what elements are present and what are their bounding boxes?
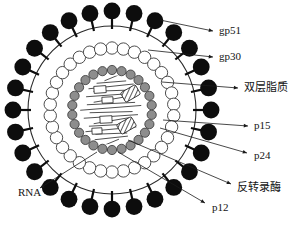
reverse-transcriptase-box [100,116,112,124]
bilayer-bead [106,166,118,178]
spike-head [5,102,22,119]
capsid-bead [145,120,154,129]
reverse-transcriptase-box [92,128,102,135]
spike-head [193,145,210,162]
spike-head [104,201,121,218]
spike-head [26,163,43,180]
capsid-bead [145,91,154,100]
bilayer-bead [106,42,118,54]
spike-head [82,5,99,22]
bilayer-bead [46,121,58,133]
label-rt: 反转录酶 [237,180,281,194]
reverse-transcriptase-box [102,97,113,104]
label-gp51: gp51 [219,24,241,36]
virus-diagram-figure: gp51gp30双层脂质p15p24反转录酶p12RNA [0,0,303,225]
spike-head [7,80,24,97]
capsid-bead [107,65,116,74]
label-gp30: gp30 [219,50,242,62]
bilayer-bead [165,87,177,99]
capsid-bead [98,144,107,153]
capsid-bead [68,101,77,110]
label-bilayer: 双层脂质 [244,80,288,94]
spike-head [147,191,164,208]
capsid-bead [70,91,79,100]
spike-head [14,59,31,76]
capsid-bead [134,75,143,84]
capsid-bead [81,75,90,84]
reverse-transcriptase-box [94,86,106,94]
spike-head [26,40,43,57]
spike-head [82,198,99,215]
bilayer-bead [117,165,129,177]
label-p24: p24 [254,149,271,161]
spike-head [61,12,78,29]
bilayer-bead [128,162,140,174]
spike-head [14,145,31,162]
capsid-bead [140,83,149,92]
spike-head [200,80,217,97]
label-p15: p15 [254,119,271,131]
bilayer-bead [44,98,56,110]
spike-head [104,3,121,20]
capsid-bead [147,101,156,110]
spike-head [203,102,220,119]
bilayer-bead [117,43,129,55]
capsid-bead [117,67,126,76]
bilayer-bead [94,165,106,177]
spike-head [200,124,217,141]
capsid-bead [81,135,90,144]
capsid-bead [74,83,83,92]
spike-head [61,191,78,208]
spike-head [193,59,210,76]
capsid-bead [70,120,79,129]
spike-head [165,24,182,41]
bilayer-bead [94,43,106,55]
capsid-bead [126,70,135,79]
spike-head [126,5,143,22]
bilayer-bead [44,110,56,122]
capsid-bead [89,70,98,79]
label-rna: RNA [18,186,41,198]
capsid-bead [107,145,116,154]
capsid-bead [140,128,149,137]
viral-core [77,75,147,145]
capsid-bead [74,128,83,137]
capsid-bead [98,67,107,76]
bilayer-bead [83,46,95,58]
virus-diagram-canvas: gp51gp30双层脂质p15p24反转录酶p12RNA [0,0,303,225]
spike-head [7,124,24,141]
bilayer-bead [168,98,180,110]
capsid-bead [147,110,156,119]
capsid-bead [68,110,77,119]
label-p12: p12 [212,201,229,213]
spike-head [147,12,164,29]
spike-head [42,24,59,41]
spike-head [126,198,143,215]
capsid-bead [89,141,98,150]
